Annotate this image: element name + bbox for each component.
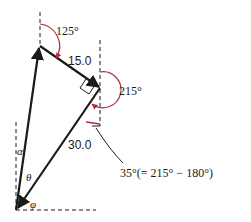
label-theta: θ: [26, 171, 32, 183]
vector-diagram: 125° 15.0 215° 30.0 35°(= 215° − 180°) α…: [0, 0, 251, 222]
leader-line-35: [96, 128, 123, 163]
label-alpha: α: [17, 145, 23, 157]
vector-resultant-alpha: [16, 48, 39, 210]
angle-arc-35: [86, 122, 100, 124]
label-phi: φ: [30, 198, 36, 210]
label-magnitude-30: 30.0: [68, 138, 92, 152]
label-magnitude-15: 15.0: [68, 54, 92, 68]
label-angle-note: 35°(= 215° − 180°): [120, 166, 213, 180]
label-angle-215: 215°: [119, 84, 142, 98]
right-angle-marker: [80, 79, 95, 94]
angle-arc-215: [92, 72, 121, 108]
label-angle-125: 125°: [56, 24, 79, 38]
